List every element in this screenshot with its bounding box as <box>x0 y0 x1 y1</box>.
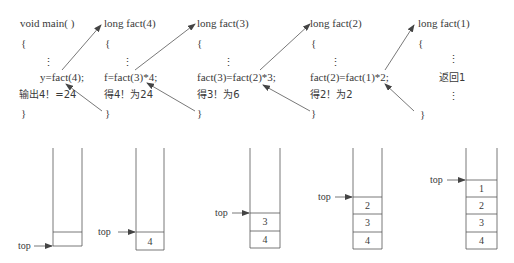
open-brace: { <box>418 37 423 49</box>
top-pointer-label: top <box>318 192 331 202</box>
stack-cell: 4 <box>466 232 497 249</box>
return-arrow-fact1-to-fact2 <box>385 84 414 111</box>
top-pointer-label: top <box>215 208 228 218</box>
call-arrow-fact2-to-fact1 <box>385 25 414 70</box>
stack-cell: 3 <box>353 214 382 231</box>
call-arrow-fact4-to-fact3 <box>135 24 195 70</box>
frame-header: void main( ) <box>20 17 74 29</box>
stack-cell: 4 <box>136 233 164 250</box>
ellipsis-icon: ⋮ <box>448 90 459 102</box>
open-brace: { <box>311 37 316 49</box>
open-brace: { <box>105 37 110 49</box>
stack-cell: 4 <box>353 232 382 249</box>
return-arrow-fact2-to-fact3 <box>263 85 310 111</box>
stack-cell: 1 <box>466 180 497 197</box>
result-line: 输出4！=24 <box>19 89 76 101</box>
ellipsis-icon: ⋮ <box>330 56 341 68</box>
call-line: f=fact(3)*4; <box>104 71 157 83</box>
call-line: 返回1 <box>439 72 465 84</box>
stack-cell: 2 <box>353 197 382 214</box>
top-pointer-label: top <box>98 227 111 237</box>
ellipsis-icon: ⋮ <box>43 56 54 68</box>
frame-header: long fact(2) <box>310 17 362 29</box>
close-brace: } <box>420 108 425 120</box>
close-brace: } <box>21 107 26 119</box>
close-brace: } <box>311 107 316 119</box>
frame-header: long fact(4) <box>104 17 156 29</box>
result-line: 得3！为6 <box>197 89 240 101</box>
open-brace: { <box>197 37 202 49</box>
open-brace: { <box>21 37 26 49</box>
return-arrow-fact3-to-fact4 <box>147 83 195 111</box>
call-arrow-main-to-fact4 <box>62 25 101 70</box>
top-pointer-label: top <box>430 175 443 185</box>
close-brace: } <box>105 107 110 119</box>
call-arrow-fact3-to-fact2 <box>260 24 310 70</box>
frame-header: long fact(1) <box>418 17 470 29</box>
top-pointer-label: top <box>18 241 31 251</box>
stack-cell: 4 <box>250 231 280 248</box>
stack-cell: 2 <box>466 197 497 214</box>
ellipsis-icon: ⋮ <box>223 56 234 68</box>
frame-header: long fact(3) <box>197 17 249 29</box>
call-line: fact(2)=fact(1)*2; <box>310 71 389 83</box>
call-line: fact(3)=fact(2)*3; <box>197 71 276 83</box>
call-line: y=fact(4); <box>40 71 84 83</box>
stack-1-outline <box>53 148 82 246</box>
stack-cell: 3 <box>466 214 497 231</box>
ellipsis-icon: ⋮ <box>448 53 459 65</box>
ellipsis-icon: ⋮ <box>122 56 133 68</box>
result-line: 得4！为24 <box>104 89 153 101</box>
result-line: 得2！为2 <box>310 89 353 101</box>
close-brace: } <box>197 107 202 119</box>
stack-cell: 3 <box>250 213 280 230</box>
